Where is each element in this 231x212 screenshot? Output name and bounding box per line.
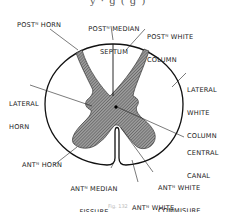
- label-posterior-white-column: POSTᴺ WHITE COLUMN: [147, 19, 193, 80]
- label-lateral-horn: LATERAL HORN: [9, 86, 39, 147]
- label-anterior-horn: ANTᴺ HORN: [22, 162, 62, 170]
- label-posterior-median-septum: POSTᴺ MEDIAN SEPTUM: [84, 11, 144, 72]
- label-posterior-horn: POSTᴺ HORN: [17, 22, 61, 30]
- label-anterior-white-column: ANTᴺ WHITE COLUMN: [132, 190, 174, 212]
- spinal-cord-diagram: y · g ( g ): [0, 0, 231, 212]
- figure-caption: Fig. 132: [108, 203, 128, 209]
- leader-post-horn: [50, 29, 78, 50]
